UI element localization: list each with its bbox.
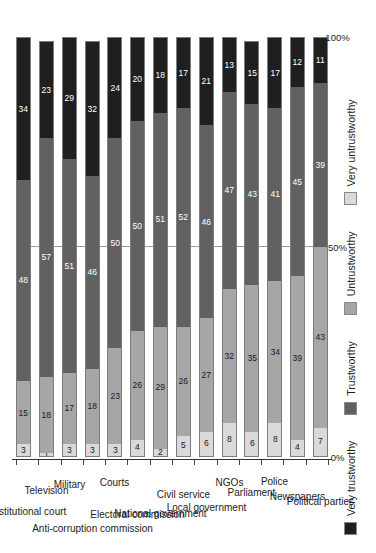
bar-segment-value: 4	[135, 444, 140, 453]
bar-segment[interactable]: 26	[176, 327, 191, 436]
bar-segment[interactable]: 27	[199, 318, 214, 431]
bar-segment[interactable]: 17	[176, 37, 191, 108]
bar-segment-value: 15	[19, 409, 28, 418]
bar-segment-value: 11	[316, 56, 325, 65]
bar-segment[interactable]: 23	[107, 348, 122, 445]
bar-segment[interactable]: 4	[130, 440, 145, 457]
bar-segment[interactable]: 32	[85, 41, 100, 175]
bar-segment[interactable]: 50	[107, 138, 122, 348]
axis-tick-mark	[239, 460, 240, 465]
bar-row[interactable]: 1185723	[39, 37, 54, 457]
bar-segment-value: 23	[110, 392, 119, 401]
bar-segment[interactable]: 18	[85, 369, 100, 445]
bar-segment-value: 1	[44, 453, 49, 457]
axis-tick-mark	[38, 460, 39, 465]
bar-segment[interactable]: 39	[290, 276, 305, 440]
category-label: Constitutional court	[16, 461, 31, 553]
bar-segment[interactable]: 18	[39, 377, 54, 453]
bar-segment[interactable]: 15	[244, 41, 259, 104]
bar-row[interactable]: 3154834	[16, 37, 31, 457]
bar-row[interactable]: 3235024	[107, 37, 122, 457]
bar-segment[interactable]: 17	[267, 37, 282, 108]
bar-segment[interactable]: 29	[62, 37, 77, 159]
category-label: Electoral commission	[130, 461, 145, 553]
bar-segment[interactable]: 3	[62, 444, 77, 457]
bar-segment[interactable]: 51	[153, 113, 168, 327]
bar-row[interactable]: 4394512	[290, 37, 305, 457]
category-label: Courts	[107, 461, 122, 553]
bar-segment[interactable]: 8	[222, 423, 237, 457]
bar-segment[interactable]: 6	[244, 432, 259, 457]
bar-segment[interactable]: 12	[290, 37, 305, 87]
bar-segment-value: 17	[179, 69, 188, 78]
bar-segment-value: 3	[113, 446, 118, 455]
bar-segment[interactable]: 2	[153, 449, 168, 457]
bar-segment-value: 18	[156, 71, 165, 80]
bar-row[interactable]: 8324713	[222, 37, 237, 457]
bar-segment-value: 3	[90, 446, 95, 455]
bar-segment[interactable]: 17	[62, 373, 77, 444]
bar-segment-value: 15	[247, 69, 256, 78]
bar-segment[interactable]: 51	[62, 159, 77, 373]
bar-segment[interactable]: 50	[130, 121, 145, 331]
bar-segment[interactable]: 11	[313, 37, 328, 83]
bar-segment[interactable]: 18	[153, 37, 168, 113]
bar-segment-value: 39	[293, 354, 302, 363]
axis-tick-mark	[328, 460, 329, 465]
bar-segment[interactable]: 6	[199, 432, 214, 457]
bar-row[interactable]: 6354315	[244, 37, 259, 457]
bar-row[interactable]: 3184632	[85, 37, 100, 457]
bar-segment[interactable]: 5	[176, 436, 191, 457]
bar-row[interactable]: 3175129	[62, 37, 77, 457]
bar-segment[interactable]: 15	[16, 381, 31, 444]
bar-segment[interactable]: 29	[153, 327, 168, 449]
bar-segment[interactable]: 46	[199, 125, 214, 318]
bar-segment[interactable]: 8	[267, 423, 282, 457]
category-label: Police	[267, 461, 282, 553]
bar-segment[interactable]: 20	[130, 37, 145, 121]
bar-row[interactable]: 2295118	[153, 37, 168, 457]
bar-segment[interactable]: 3	[107, 444, 122, 457]
bar-segment[interactable]: 1	[39, 453, 54, 457]
bar-segment[interactable]: 24	[107, 37, 122, 138]
bar-segment-value: 23	[42, 86, 51, 95]
bar-segment[interactable]: 26	[130, 331, 145, 440]
bar-segment[interactable]: 34	[267, 281, 282, 424]
bar-segment[interactable]: 43	[313, 247, 328, 428]
axis-tick-label: 0%	[332, 450, 343, 464]
bar-segment[interactable]: 21	[199, 37, 214, 125]
bar-segment-value: 5	[181, 442, 186, 451]
bar-segment-value: 35	[247, 354, 256, 363]
bar-segment[interactable]: 3	[85, 444, 100, 457]
bar-row[interactable]: 5265217	[176, 37, 191, 457]
bar-segment[interactable]: 7	[313, 428, 328, 457]
bar-row[interactable]: 8344117	[267, 37, 282, 457]
bar-segment[interactable]: 34	[16, 37, 31, 180]
bar-segment[interactable]: 4	[290, 440, 305, 457]
bar-segment[interactable]: 43	[244, 104, 259, 285]
bar-segment[interactable]: 13	[222, 37, 237, 92]
bar-segment[interactable]: 57	[39, 138, 54, 377]
axis-tick-mark	[306, 460, 307, 465]
bar-segment[interactable]: 45	[290, 87, 305, 276]
bar-segment-value: 48	[19, 276, 28, 285]
bar-segment[interactable]: 47	[222, 92, 237, 289]
bar-row[interactable]: 7433911	[313, 37, 328, 457]
bar-segment[interactable]: 52	[176, 108, 191, 326]
bar-segment[interactable]: 39	[313, 83, 328, 247]
bar-row[interactable]: 4265020	[130, 37, 145, 457]
bar-row[interactable]: 6274621	[199, 37, 214, 457]
bar-segment[interactable]: 46	[85, 176, 100, 369]
bar-segment-value: 26	[179, 377, 188, 386]
bar-segment[interactable]: 3	[16, 444, 31, 457]
bar-segment[interactable]: 32	[222, 289, 237, 423]
bar-segment[interactable]: 35	[244, 285, 259, 432]
bar-segment[interactable]: 48	[16, 180, 31, 382]
bar-segment[interactable]: 41	[267, 108, 282, 280]
bar-segment-value: 50	[110, 239, 119, 248]
bar-segment-value: 18	[87, 402, 96, 411]
bar-segment-value: 3	[67, 446, 72, 455]
legend-swatch-icon	[344, 522, 357, 535]
bar-segment[interactable]: 23	[39, 41, 54, 138]
axis-tick-mark	[172, 460, 173, 465]
